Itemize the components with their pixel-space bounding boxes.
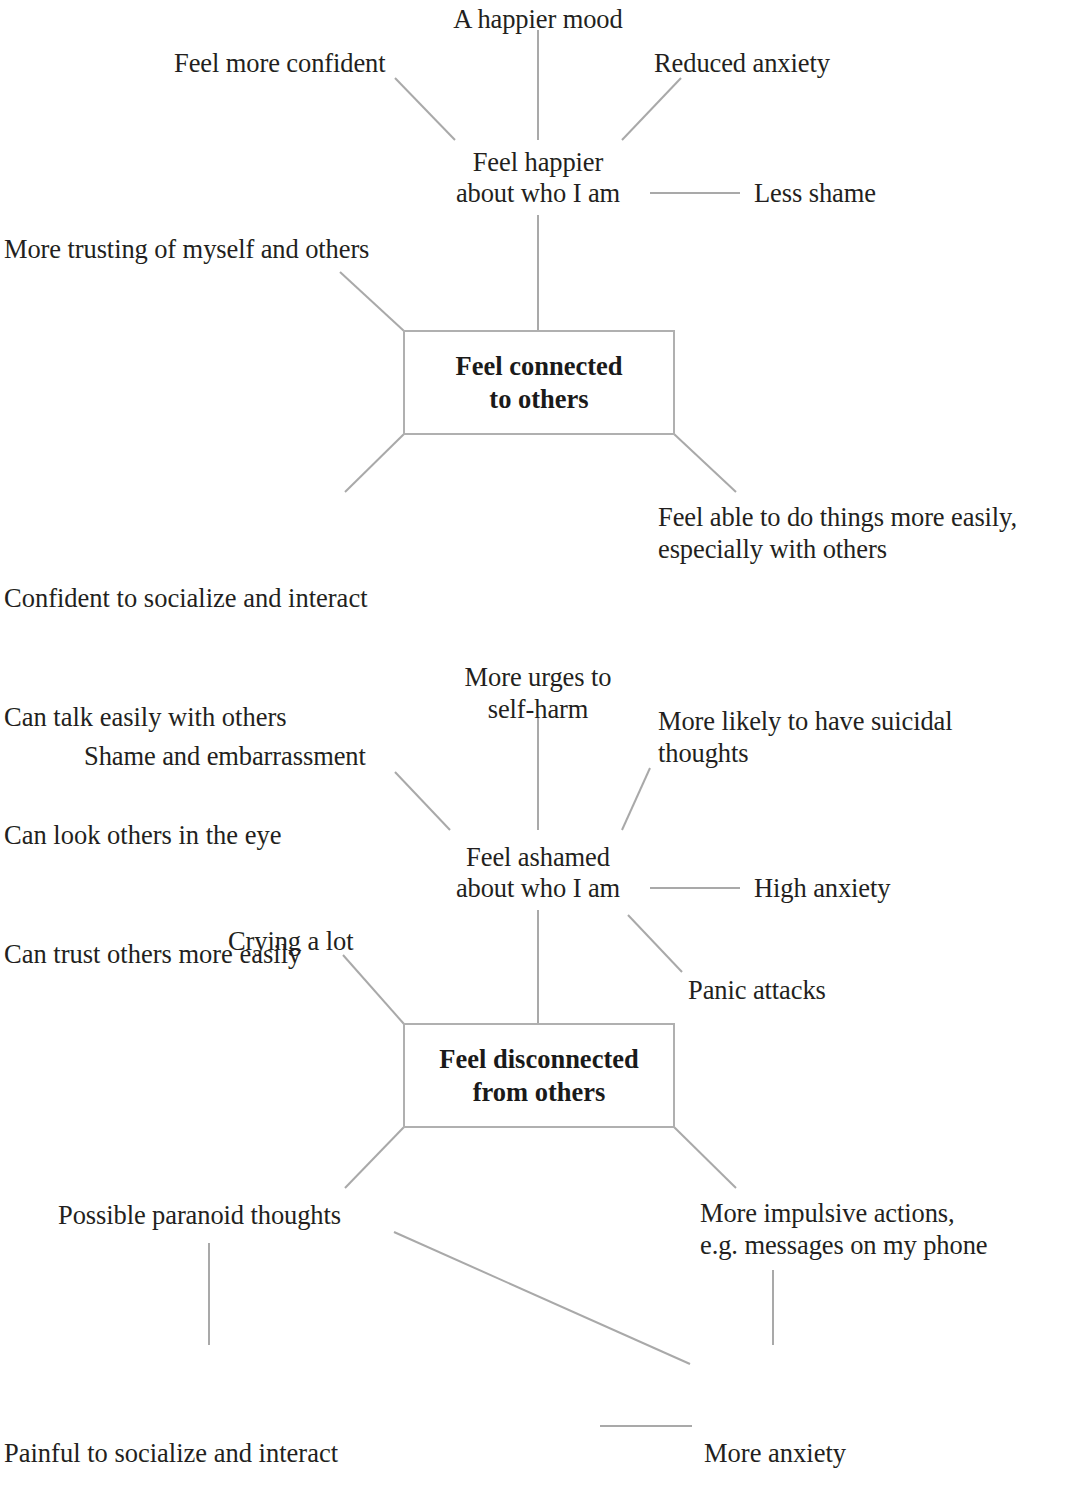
connector-hub-to-suicidal-thoughts	[622, 768, 650, 830]
label-reduced-anxiety: Reduced anxiety	[654, 44, 830, 82]
label-feel-able-to-do-things-line2: especially with others	[658, 530, 887, 568]
label-less-shame: Less shame	[754, 174, 876, 212]
connector-disconnected-box-to-paranoid	[345, 1127, 404, 1188]
list-item: Can look others in the eye	[4, 816, 368, 856]
label-more-likely-suicidal-line2: thoughts	[658, 734, 749, 772]
label-crying-a-lot: Crying a lot	[228, 922, 353, 960]
node-label-line1: Feel disconnected from others	[439, 1044, 638, 1107]
connector-paranoid-to-more-anxiety	[394, 1232, 690, 1364]
connector-hub-to-panic-attacks	[628, 915, 682, 972]
node-label-line1: Feel connected to others	[455, 351, 622, 414]
label-more-impulsive-actions-line2: e.g. messages on my phone	[700, 1226, 987, 1264]
label-more-urges-line2: self-harm	[398, 690, 678, 728]
hub-feel-ashamed-line2: about who I am	[398, 869, 678, 907]
hub-feel-happier-line2: about who I am	[398, 174, 678, 212]
label-possible-paranoid-thoughts: Possible paranoid thoughts	[58, 1196, 341, 1234]
label-panic-attacks: Panic attacks	[688, 971, 826, 1009]
label-a-happier-mood: A happier mood	[398, 0, 678, 38]
connector-disconnected-box-to-impulsive	[674, 1127, 736, 1188]
connector-hub-to-shame-embarrassment	[395, 772, 450, 830]
connector-connected-box-to-left-list	[345, 434, 404, 492]
label-feel-more-confident: Feel more confident	[174, 44, 386, 82]
list-item: Painful to socialize and interact	[4, 1434, 516, 1474]
node-label-feel-connected-to-others: Feel connected to others	[404, 350, 674, 416]
connector-connected-box-to-more-trusting	[340, 272, 404, 331]
connector-connected-box-to-right-text	[674, 434, 736, 492]
list-disconnected-consequences-left: Painful to socialize and interact Strugg…	[4, 1355, 516, 1504]
list-item: Can talk easily with others	[4, 698, 368, 738]
connector-hub-to-feel-more-confident	[395, 78, 455, 140]
node-label-feel-disconnected-from-others: Feel disconnected from others	[404, 1043, 674, 1109]
list-disconnected-consequences-right: More anxiety More panic More feeling alo…	[704, 1355, 987, 1504]
list-item: More anxiety	[704, 1434, 987, 1474]
list-item: Confident to socialize and interact	[4, 579, 368, 619]
label-high-anxiety: High anxiety	[754, 869, 890, 907]
label-shame-and-embarrassment: Shame and embarrassment	[84, 737, 366, 775]
connector-hub-to-reduced-anxiety	[622, 78, 681, 140]
label-more-trusting-of-myself-and-others: More trusting of myself and others	[4, 230, 369, 268]
